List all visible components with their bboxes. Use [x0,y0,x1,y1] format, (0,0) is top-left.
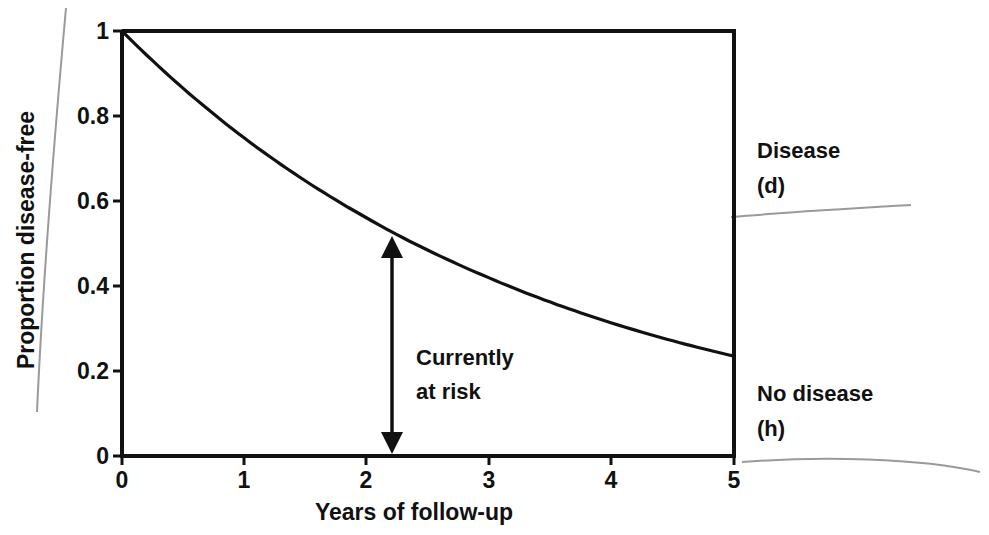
x-tick-labels: 0 1 2 3 4 5 [116,467,741,493]
disease-label: Disease [757,138,840,163]
x-tick-label: 1 [238,467,251,493]
pencil-mark-left [37,8,66,412]
y-tick-label: 0.4 [77,273,109,299]
annotation-currently: Currently [416,345,515,370]
y-tick-label: 0.8 [77,103,109,129]
disease-code-label: (d) [757,173,785,198]
x-tick-label: 2 [360,467,373,493]
at-risk-double-arrow [381,236,403,454]
pencil-mark-no-disease [742,459,980,472]
x-tick-label: 5 [728,467,741,493]
x-tick-label: 4 [605,467,618,493]
arrow-up-icon [381,236,403,258]
x-axis-title: Years of follow-up [315,499,513,525]
no-disease-code-label: (h) [757,416,785,441]
arrow-down-icon [381,432,403,454]
survival-curve [122,31,734,356]
y-tick-label: 0 [96,443,109,469]
y-tick-labels: 1 0.8 0.6 0.4 0.2 0 [77,18,109,469]
pencil-mark-disease [731,205,911,217]
y-tick-label: 0.6 [77,188,109,214]
x-tick-label: 3 [483,467,496,493]
y-tick-label: 0.2 [77,358,109,384]
annotation-at-risk: at risk [416,379,482,404]
survival-chart: 1 0.8 0.6 0.4 0.2 0 0 1 2 3 4 5 Years of… [0,0,989,535]
y-axis-title: Proportion disease-free [13,111,39,369]
y-tick-label: 1 [96,18,109,44]
x-tick-label: 0 [116,467,129,493]
no-disease-label: No disease [757,381,873,406]
